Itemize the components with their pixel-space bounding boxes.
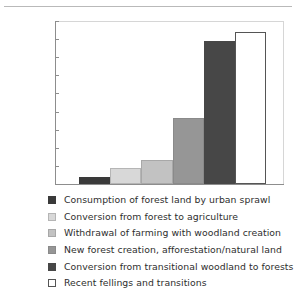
- bar-3[interactable]: [173, 118, 204, 184]
- legend-label-0: Consumption of forest land by urban spra…: [64, 195, 270, 205]
- legend-swatch-5: [48, 279, 56, 287]
- legend-item[interactable]: Conversion from transitional woodland to…: [48, 258, 296, 275]
- legend-label-5: Recent fellings and transitions: [64, 278, 207, 288]
- y-axis-labels: 180 000160 000140 000120 000100 00080 00…: [0, 0, 51, 302]
- legend-item[interactable]: Conversion from forest to agriculture: [48, 209, 296, 226]
- y-axis-tick-mark: [55, 93, 59, 94]
- y-axis-tick-mark: [55, 112, 59, 113]
- y-axis-tick-mark: [55, 75, 59, 76]
- legend-swatch-4: [48, 263, 56, 271]
- legend-swatch-3: [48, 246, 56, 254]
- y-axis-tick-mark: [55, 148, 59, 149]
- legend-item[interactable]: Consumption of forest land by urban spra…: [48, 192, 296, 209]
- bar-series: [56, 21, 284, 184]
- y-axis-tick-mark: [55, 21, 59, 22]
- bar-1[interactable]: [110, 168, 141, 184]
- bar-0[interactable]: [79, 177, 110, 184]
- legend-label-2: Withdrawal of farming with woodland crea…: [64, 228, 281, 238]
- legend-label-4: Conversion from transitional woodland to…: [64, 262, 293, 272]
- x-axis-line: [55, 184, 284, 185]
- legend-label-1: Conversion from forest to agriculture: [64, 212, 238, 222]
- bar-2[interactable]: [141, 160, 172, 184]
- bar-4[interactable]: [204, 41, 235, 184]
- y-axis-tick-mark: [55, 57, 59, 58]
- legend-item[interactable]: Withdrawal of farming with woodland crea…: [48, 225, 296, 242]
- bar-chart-figure: 180 000160 000140 000120 000100 00080 00…: [0, 0, 296, 302]
- legend-swatch-0: [48, 196, 56, 204]
- legend-item[interactable]: New forest creation, afforestation/natur…: [48, 242, 296, 259]
- legend-swatch-2: [48, 229, 56, 237]
- legend-label-3: New forest creation, afforestation/natur…: [64, 245, 282, 255]
- y-axis-tick-mark: [55, 130, 59, 131]
- legend-swatch-1: [48, 213, 56, 221]
- bar-5[interactable]: [235, 32, 266, 184]
- y-axis-tick-mark: [55, 39, 59, 40]
- y-axis-tick-mark: [55, 166, 59, 167]
- legend-item[interactable]: Recent fellings and transitions: [48, 275, 296, 292]
- y-axis-tick-mark: [55, 184, 59, 185]
- chart-legend: Consumption of forest land by urban spra…: [48, 192, 296, 292]
